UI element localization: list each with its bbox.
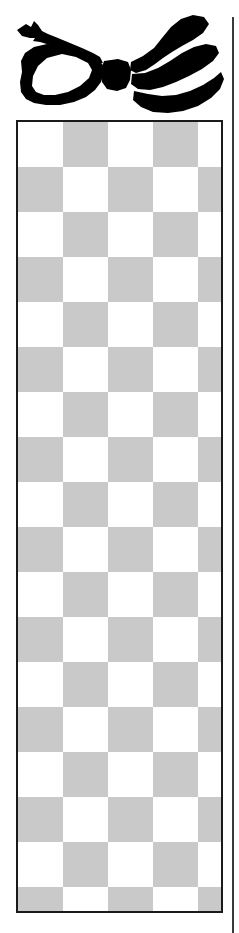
checker-cell: [198, 887, 221, 911]
checker-cell: [153, 752, 198, 797]
bow-knot: [101, 59, 131, 91]
checker-cell: [153, 572, 198, 617]
checker-cell: [153, 842, 198, 887]
checker-cell: [63, 122, 108, 167]
checker-cell: [63, 662, 108, 707]
checker-cell: [153, 482, 198, 527]
checker-cell: [198, 167, 221, 212]
checker-cell: [18, 167, 63, 212]
checker-cell: [108, 437, 153, 482]
checker-cell: [108, 347, 153, 392]
vertical-margin-rule: [232, 17, 234, 933]
checker-cell: [198, 797, 221, 842]
checker-cell: [153, 662, 198, 707]
checker-cell: [108, 707, 153, 752]
checker-cell: [108, 887, 153, 911]
checker-cell: [18, 257, 63, 302]
checker-cell: [63, 482, 108, 527]
checker-cell: [198, 347, 221, 392]
checker-cell: [108, 527, 153, 572]
checker-cell: [63, 842, 108, 887]
checker-cell: [63, 302, 108, 347]
checker-cell: [153, 302, 198, 347]
checker-cell: [198, 617, 221, 662]
checkerboard-panel: [16, 120, 223, 913]
checker-cell: [63, 392, 108, 437]
checker-cell: [108, 617, 153, 662]
checker-cell: [63, 752, 108, 797]
page-canvas: [0, 0, 239, 933]
checkerboard-grid: [18, 122, 221, 911]
checker-cell: [153, 122, 198, 167]
checker-cell: [18, 527, 63, 572]
checker-cell: [18, 887, 63, 911]
checker-cell: [63, 572, 108, 617]
checker-cell: [153, 392, 198, 437]
checker-cell: [153, 212, 198, 257]
checker-cell: [198, 707, 221, 752]
checker-cell: [108, 257, 153, 302]
checker-cell: [198, 527, 221, 572]
checker-cell: [18, 797, 63, 842]
ribbon-bow-shapes: [17, 15, 224, 113]
checker-cell: [18, 437, 63, 482]
checker-cell: [18, 617, 63, 662]
ribbon-bow-icon: [0, 0, 225, 118]
checker-cell: [63, 212, 108, 257]
ribbon-bow-illustration: [0, 0, 225, 118]
checker-cell: [198, 437, 221, 482]
checker-cell: [198, 257, 221, 302]
checker-cell: [18, 707, 63, 752]
checker-cell: [108, 167, 153, 212]
checker-cell: [18, 347, 63, 392]
checker-cell: [108, 797, 153, 842]
